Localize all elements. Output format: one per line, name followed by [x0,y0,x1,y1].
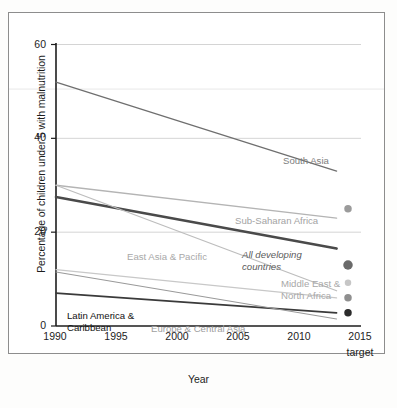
series-label-sub-saharan-africa: Sub-Saharan Africa [235,215,318,227]
target-dot-sub-saharan-africa-target [344,205,352,213]
series-label-all-developing-countries: All developing countries [242,249,302,272]
series-label-south-asia: South Asia [283,155,329,167]
target-dot-south-asia-target [343,260,353,270]
target-dot-latin-america-caribbean-target [344,309,352,317]
x-axis-title: Year [0,373,397,385]
chart-frame: 0204060 South AsiaSub-Saharan AfricaAll … [8,12,385,354]
target-dot-east-asia-pacific-target [345,280,352,287]
x-tick-label-2010: 2010 [276,330,322,342]
x-tick-sublabel-target: target [337,346,383,358]
x-tick-label-1995: 1995 [93,330,139,342]
x-tick-label-2000: 2000 [154,330,200,342]
chart-plot-area [9,13,384,353]
series-label-east-asia-pacific: East Asia & Pacific [127,251,207,263]
x-tick-label-2015: 2015 [337,330,383,342]
x-tick-label-2005: 2005 [215,330,261,342]
x-tick-label-1990: 1990 [32,330,78,342]
target-dot-middle-east-north-africa-target [344,294,352,302]
series-label-middle-east-north-africa: Middle East & North Africa [281,278,340,301]
chart-figure: 0204060 South AsiaSub-Saharan AfricaAll … [0,0,397,408]
target-markers [343,205,353,317]
gridlines [9,45,384,233]
y-axis-title: Percentage of children under 5 with maln… [35,29,47,299]
